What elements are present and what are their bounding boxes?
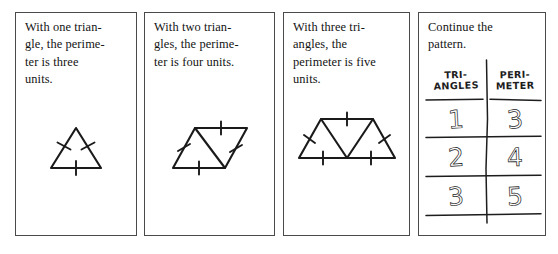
panel-prompt-text: With one trian- gle, the perime- ter is … bbox=[25, 19, 130, 88]
table-cell-perimeter-2[interactable]: 4 bbox=[488, 137, 541, 177]
internal-edge-right bbox=[347, 119, 373, 158]
panel-prompt-text: With three tri- angles, the perimeter is… bbox=[293, 19, 403, 88]
three-triangles-trapezoid-figure bbox=[284, 113, 409, 193]
worksheet: With one trian- gle, the perime- ter is … bbox=[0, 0, 558, 254]
table-cell-perimeter-3[interactable]: 5 bbox=[488, 176, 542, 217]
column-divider-line bbox=[486, 60, 488, 223]
table-cell-perimeter-1[interactable]: 3 bbox=[487, 98, 542, 139]
pattern-table[interactable]: TRI- ANGLES PERI- METER 1 3 2 4 3 5 bbox=[425, 59, 540, 225]
two-triangles-rhombus-figure bbox=[145, 121, 274, 196]
tick-mark-left-slant bbox=[304, 135, 315, 143]
panel-prompt-text: With two trian- gles, the perime- ter is… bbox=[154, 19, 268, 71]
one-triangle-figure bbox=[16, 123, 136, 198]
table-header-triangles: TRI- ANGLES bbox=[426, 60, 485, 100]
tick-mark-right-slant bbox=[379, 135, 390, 143]
panel-three-triangles: With three tri- angles, the perimeter is… bbox=[283, 12, 410, 236]
panel-one-triangle: With one trian- gle, the perime- ter is … bbox=[15, 12, 137, 236]
panel-continue-pattern: Continue the pattern. TRI- ANGLES PERI- … bbox=[418, 12, 546, 236]
panel-two-triangles: With two trian- gles, the perime- ter is… bbox=[144, 12, 275, 236]
table-cell-triangles-2[interactable]: 2 bbox=[426, 136, 487, 178]
internal-edge-left bbox=[321, 119, 347, 158]
table-cell-triangles-3[interactable]: 3 bbox=[425, 175, 486, 218]
table-header-perimeter: PERI- METER bbox=[489, 60, 542, 99]
table-cell-triangles-1[interactable]: 1 bbox=[426, 100, 486, 139]
panel-prompt-text: Continue the pattern. bbox=[428, 19, 539, 54]
